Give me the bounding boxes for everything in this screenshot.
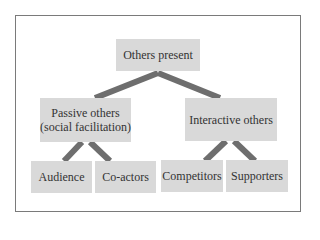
connector-passive-coactors bbox=[90, 142, 110, 161]
node-label: Interactive others bbox=[189, 113, 273, 127]
connector-interactive-supporters bbox=[234, 141, 255, 161]
node-label: Supporters bbox=[231, 169, 283, 183]
node-co-actors: Co-actors bbox=[95, 161, 156, 193]
node-passive-others: Passive others (social facilitation) bbox=[40, 98, 131, 142]
node-label: Co-actors bbox=[102, 170, 149, 184]
node-label-line1: Passive others bbox=[51, 106, 119, 120]
node-label-line2: (social facilitation) bbox=[40, 120, 131, 134]
node-label: Competitors bbox=[162, 169, 221, 183]
connector-interactive-competitors bbox=[205, 141, 226, 161]
node-interactive-others: Interactive others bbox=[185, 98, 277, 141]
connector-root-passive bbox=[95, 73, 158, 98]
node-competitors: Competitors bbox=[161, 160, 223, 192]
connector-root-interactive bbox=[158, 73, 220, 98]
node-label: Audience bbox=[39, 170, 85, 184]
connector-passive-audience bbox=[64, 142, 82, 161]
node-supporters: Supporters bbox=[226, 160, 288, 192]
node-label: Others present bbox=[123, 48, 193, 62]
node-others-present: Others present bbox=[116, 39, 200, 71]
node-audience: Audience bbox=[31, 161, 92, 193]
